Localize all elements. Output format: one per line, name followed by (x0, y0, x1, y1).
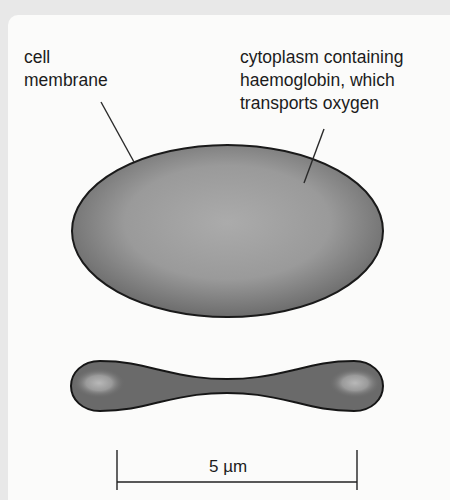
scale-bar-label: 5 µm (209, 457, 247, 477)
right-lobe-highlight (329, 368, 381, 398)
membrane-leader-line (101, 102, 134, 162)
red-blood-cell-face-view (72, 145, 383, 317)
left-lobe-highlight (73, 368, 125, 398)
cytoplasm-label: cytoplasm containing haemoglobin, which … (240, 46, 403, 115)
cell-membrane-label: cell membrane (24, 46, 108, 92)
